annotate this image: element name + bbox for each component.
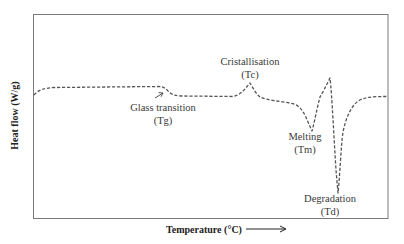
dsc-curve xyxy=(34,78,388,193)
glass-transition-label: Glass transition xyxy=(128,101,198,114)
annotation-degradation: Degradation (Td) xyxy=(296,192,364,218)
annotation-crystallisation: Cristallisation (Tc) xyxy=(212,55,288,81)
tg-label: (Tg) xyxy=(128,114,198,127)
tg-arrow-icon xyxy=(155,93,163,98)
x-axis-arrow-icon xyxy=(246,226,286,232)
y-axis-label: Heat flow (W/g) xyxy=(9,71,20,161)
plot-frame xyxy=(34,15,389,219)
melting-label: Melting xyxy=(280,130,330,143)
degradation-label: Degradation xyxy=(296,192,364,205)
td-label: (Td) xyxy=(296,205,364,218)
dsc-chart: Heat flow (W/g) Temperature (°C) Glass t… xyxy=(0,0,404,244)
x-axis-label: Temperature (°C) xyxy=(166,224,242,235)
tm-label: (Tm) xyxy=(280,143,330,156)
crystallisation-label: Cristallisation xyxy=(212,55,288,68)
annotation-glass-transition: Glass transition (Tg) xyxy=(128,101,198,127)
annotation-melting: Melting (Tm) xyxy=(280,130,330,156)
tc-label: (Tc) xyxy=(212,68,288,81)
